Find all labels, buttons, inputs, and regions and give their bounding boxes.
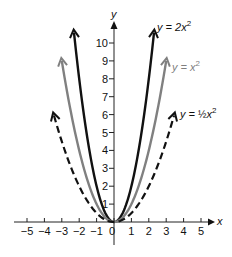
x-tick-label: 3 — [163, 225, 169, 237]
curve-label-3: y = ½x2 — [179, 106, 217, 120]
x-tick-label: 4 — [181, 225, 187, 237]
x-tick-label: −1 — [90, 225, 103, 237]
y-tick-label: 8 — [102, 73, 108, 85]
y-tick-label: 10 — [96, 37, 108, 49]
y-tick-label: 2 — [102, 180, 108, 192]
x-axis-label: x — [216, 215, 223, 227]
x-tick-label: −4 — [38, 225, 51, 237]
curve-label-1: y = 2x2 — [156, 19, 192, 33]
y-tick-label: 7 — [102, 91, 108, 103]
y-tick-label: 5 — [102, 127, 108, 139]
parabola-chart: xy−5−4−3−2−101234512345678910 y = 2x2y =… — [0, 0, 232, 257]
y-tick-label: 4 — [102, 144, 108, 156]
y-tick-label: 6 — [102, 109, 108, 121]
y-axis-arrow-icon — [111, 21, 118, 29]
x-axis-arrow-icon — [208, 219, 215, 226]
x-tick-label: 0 — [109, 225, 115, 237]
y-tick-label: 9 — [102, 55, 108, 67]
x-tick-label: −5 — [21, 225, 34, 237]
curve-label-2: y = x2 — [171, 59, 201, 73]
x-tick-label: 1 — [128, 225, 134, 237]
x-tick-label: −2 — [73, 225, 86, 237]
y-tick-label: 3 — [102, 162, 108, 174]
arrow-head-icon — [168, 113, 177, 122]
y-axis-label: y — [110, 8, 118, 20]
x-tick-label: 2 — [146, 225, 152, 237]
chart-canvas: xy−5−4−3−2−101234512345678910 y = 2x2y =… — [0, 0, 232, 257]
axes: xy−5−4−3−2−101234512345678910 — [14, 8, 223, 245]
x-tick-label: −3 — [56, 225, 69, 237]
x-tick-label: 5 — [198, 225, 204, 237]
